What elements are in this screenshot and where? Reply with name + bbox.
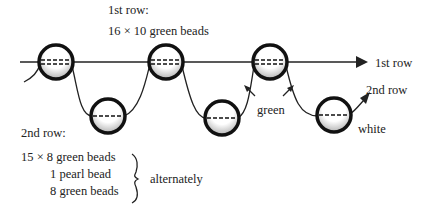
bead-1 <box>39 45 73 79</box>
bead-6-white <box>317 98 351 132</box>
green-label: green <box>257 103 285 117</box>
row2-arrow-label: 2nd row <box>366 83 407 97</box>
row1-arrow-label: 1st row <box>375 56 412 70</box>
row1-spec: 16 × 10 green beads <box>108 24 209 38</box>
row2-line-1: 15 × 8 green beads <box>21 150 116 164</box>
bead-2 <box>91 99 125 133</box>
row2-heading: 2nd row: <box>21 126 66 140</box>
thread-tail <box>24 64 40 82</box>
bead-4 <box>205 101 239 135</box>
white-label: white <box>358 122 386 136</box>
row2-line-3: 8 green beads <box>50 184 119 198</box>
bead-3 <box>149 45 183 79</box>
arrow-head-icon <box>356 56 368 68</box>
row1-heading: 1st row: <box>108 3 149 17</box>
row2-line-2: 1 pearl bead <box>50 167 111 181</box>
alternately-label: alternately <box>150 172 203 186</box>
bead-5 <box>253 45 287 79</box>
